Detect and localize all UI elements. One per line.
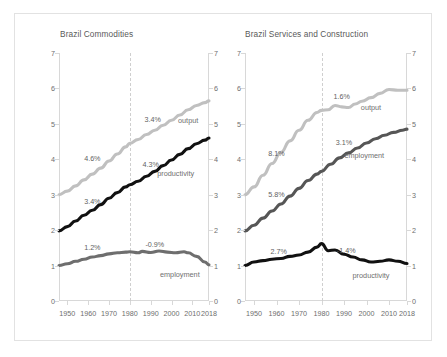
y-axis-label-r-4: 4 [412, 155, 420, 164]
growth-annotation-productivity-left-0: 3.4% [84, 197, 100, 206]
x-tick-1980 [130, 301, 131, 305]
x-tick-2018 [209, 301, 210, 305]
y-axis-label-l-0: 0 [233, 297, 241, 306]
x-tick-2000 [172, 301, 173, 305]
series-label-productivity-right: productivity [353, 271, 390, 280]
series-label-employment-left: employment [160, 270, 200, 279]
x-axis-label-1990: 1990 [336, 309, 352, 318]
x-tick-1970 [109, 301, 110, 305]
y-axis-label-l-3: 3 [47, 190, 55, 199]
y-axis-label-r-2: 2 [412, 226, 420, 235]
y-tick-r-2 [407, 230, 411, 231]
line-employment-left [59, 251, 209, 266]
figure-frame: Brazil Commodities 001122334455667719501… [14, 13, 432, 341]
x-axis-label-2018: 2018 [201, 309, 217, 318]
y-tick-r-6 [407, 88, 411, 89]
x-tick-2018 [407, 301, 408, 305]
x-axis-label-2000: 2000 [164, 309, 180, 318]
x-axis-label-1960: 1960 [269, 309, 285, 318]
y-axis-label-l-4: 4 [47, 155, 55, 164]
y-tick-r-7 [407, 53, 411, 54]
y-tick-l-6 [55, 88, 59, 89]
panel-title-right: Brazil Services and Construction [245, 29, 368, 39]
x-axis-label-1990: 1990 [143, 309, 159, 318]
y-tick-l-4 [55, 159, 59, 160]
plot-area-left: 0011223344556677195019601970198019902000… [59, 53, 209, 301]
y-tick-r-6 [209, 88, 213, 89]
x-tick-2010 [389, 301, 390, 305]
y-axis-label-l-6: 6 [47, 84, 55, 93]
y-tick-l-7 [241, 53, 245, 54]
line-productivity-right [245, 244, 407, 266]
y-axis-label-l-5: 5 [47, 119, 55, 128]
growth-annotation-employment-right-1: 3.1% [336, 138, 352, 147]
growth-annotation-employment-left-0: 1.2% [84, 243, 100, 252]
panel-brazil-commodities: Brazil Commodities 001122334455667719501… [15, 14, 225, 342]
y-axis-label-r-7: 7 [412, 49, 420, 58]
y-axis-label-l-7: 7 [233, 49, 241, 58]
series-label-employment-right: employment [344, 151, 384, 160]
series-label-productivity-left: productivity [157, 168, 194, 177]
growth-annotation-output-right-1: 1.6% [334, 91, 350, 100]
x-tick-2000 [367, 301, 368, 305]
series-label-output-left: output [178, 115, 198, 124]
y-tick-l-2 [241, 230, 245, 231]
panel-title-left: Brazil Commodities [60, 29, 133, 39]
y-tick-l-2 [55, 230, 59, 231]
line-productivity-left [59, 138, 209, 231]
y-axis-label-r-6: 6 [412, 84, 420, 93]
y-tick-l-6 [241, 88, 245, 89]
y-tick-l-3 [55, 195, 59, 196]
series-label-output-right: output [361, 102, 381, 111]
y-axis-label-l-7: 7 [47, 49, 55, 58]
y-axis-label-l-2: 2 [47, 226, 55, 235]
growth-annotation-output-right-0: 8.1% [268, 148, 284, 157]
x-axis-label-1970: 1970 [291, 309, 307, 318]
panel-brazil-services-construction: Brazil Services and Construction 0011223… [221, 14, 433, 342]
y-tick-r-4 [407, 159, 411, 160]
y-axis-label-l-2: 2 [233, 226, 241, 235]
line-output-right [245, 89, 407, 194]
x-tick-1980 [322, 301, 323, 305]
y-tick-l-5 [55, 124, 59, 125]
figure-canvas: Brazil Commodities 001122334455667719501… [0, 0, 447, 357]
y-axis-label-r-0: 0 [412, 297, 420, 306]
y-tick-l-1 [55, 266, 59, 267]
x-axis-label-1960: 1960 [80, 309, 96, 318]
y-axis-label-l-5: 5 [233, 119, 241, 128]
growth-annotation-output-left-0: 4.6% [84, 153, 100, 162]
x-tick-2010 [192, 301, 193, 305]
growth-annotation-employment-left-1: -0.9% [145, 239, 164, 248]
x-tick-1950 [67, 301, 68, 305]
y-tick-l-0 [55, 301, 59, 302]
x-axis-label-1950: 1950 [59, 309, 75, 318]
plot-area-right: 0011223344556677195019601970198019902000… [245, 53, 407, 301]
x-axis-label-2010: 2010 [184, 309, 200, 318]
y-tick-l-3 [241, 195, 245, 196]
y-tick-r-5 [407, 124, 411, 125]
y-tick-l-1 [241, 266, 245, 267]
y-tick-r-1 [209, 266, 213, 267]
y-tick-r-3 [407, 195, 411, 196]
y-tick-r-7 [209, 53, 213, 54]
growth-annotation-output-left-1: 3.4% [145, 115, 161, 124]
y-axis-label-l-1: 1 [233, 261, 241, 270]
growth-annotation-productivity-left-1: 4.3% [142, 159, 158, 168]
x-tick-1990 [151, 301, 152, 305]
y-tick-l-0 [241, 301, 245, 302]
y-axis-label-r-5: 5 [412, 119, 420, 128]
y-axis-label-r-3: 3 [412, 190, 420, 199]
x-axis-label-2010: 2010 [381, 309, 397, 318]
growth-annotation-productivity-right-0: 2.7% [271, 247, 287, 256]
x-axis-label-1950: 1950 [246, 309, 262, 318]
y-axis-label-l-3: 3 [233, 190, 241, 199]
y-tick-l-4 [241, 159, 245, 160]
x-tick-1990 [344, 301, 345, 305]
y-axis-label-r-1: 1 [412, 261, 420, 270]
y-tick-l-5 [241, 124, 245, 125]
y-tick-l-7 [55, 53, 59, 54]
y-tick-r-3 [209, 195, 213, 196]
growth-annotation-productivity-right-1: -1.4% [337, 245, 356, 254]
growth-annotation-employment-right-0: 5.8% [268, 190, 284, 199]
x-tick-1960 [88, 301, 89, 305]
